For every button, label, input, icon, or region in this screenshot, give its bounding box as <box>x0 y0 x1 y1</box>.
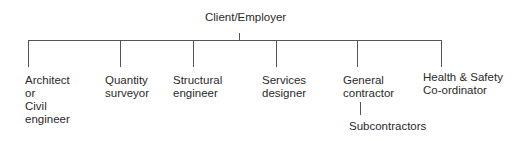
node-structural-engineer: Structural engineer <box>173 74 222 100</box>
node-general-contractor: General contractor <box>343 74 394 100</box>
node-architect: Architect or Civil engineer <box>25 74 70 126</box>
node-quantity-surveyor: Quantity surveyor <box>105 74 149 100</box>
node-client-employer: Client/Employer <box>205 11 286 24</box>
org-chart: Client/Employer Architect or Civil engin… <box>0 0 520 141</box>
drop-health-safety <box>441 40 442 67</box>
drop-quantity-surveyor <box>120 40 121 67</box>
drop-architect <box>28 40 29 67</box>
node-health-safety: Health & Safety Co-ordinator <box>423 71 503 97</box>
horizontal-bus <box>28 40 442 41</box>
drop-services-designer <box>276 40 277 67</box>
node-subcontractors: Subcontractors <box>349 120 426 133</box>
node-services-designer: Services designer <box>262 74 306 100</box>
drop-general-contractor <box>357 40 358 67</box>
connector-subcontractors <box>360 102 361 115</box>
drop-structural-engineer <box>193 40 194 67</box>
